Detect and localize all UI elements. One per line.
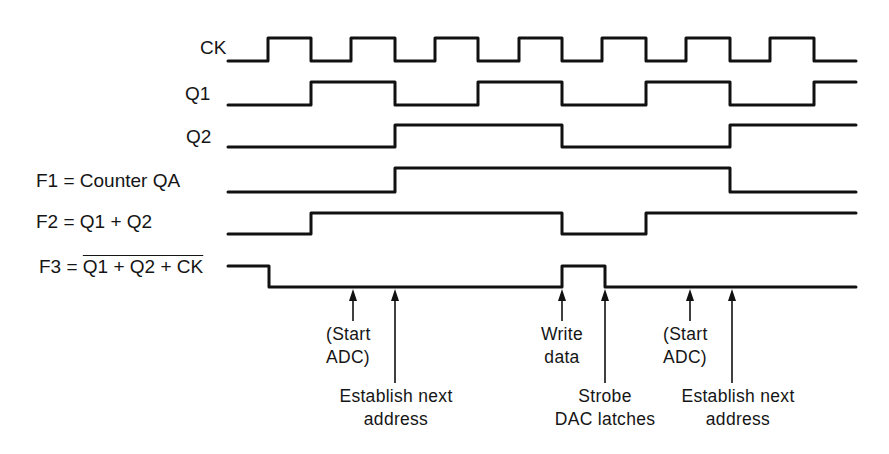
waveforms (228, 38, 856, 287)
waveform-q1 (228, 82, 856, 105)
arrow-start-adc-2-icon (686, 289, 694, 321)
arrow-strobe-dac-latches-icon (601, 289, 609, 383)
annotation-start-adc-1: (Start ADC) (326, 323, 371, 369)
waveform-ck (228, 38, 856, 61)
annotation-establish-next-address-1: Establish next address (331, 385, 461, 431)
signal-label-ck: CK (200, 37, 226, 59)
signal-label-q2: Q2 (186, 126, 211, 148)
arrow-establish-next-address-1-icon (391, 289, 399, 383)
waveform-f3 (228, 266, 856, 287)
signal-label-q1: Q1 (185, 83, 210, 105)
annotation-line: ADC) (326, 346, 371, 369)
annotation-line: Establish next (331, 385, 461, 408)
annotation-line: address (331, 408, 461, 431)
annotation-write-data: Write data (532, 323, 592, 369)
signal-label-f3: F3 = Q1 + Q2 + CK (39, 256, 203, 278)
waveform-f1 (228, 168, 856, 192)
signal-label-f2: F2 = Q1 + Q2 (36, 211, 152, 233)
annotation-line: Write (532, 323, 592, 346)
f3-label-prefix: F3 = (39, 256, 83, 277)
annotation-start-adc-2: (Start ADC) (663, 323, 708, 369)
signal-label-f1: F1 = Counter QA (36, 170, 180, 192)
annotation-strobe-dac-latches: Strobe DAC latches (549, 385, 661, 431)
waveform-q2 (228, 125, 856, 147)
arrow-start-adc-1-icon (349, 289, 357, 321)
annotation-line: Strobe (549, 385, 661, 408)
annotation-line: DAC latches (549, 408, 661, 431)
annotation-line: (Start (663, 323, 708, 346)
arrow-establish-next-address-2-icon (728, 289, 736, 383)
annotation-line: address (673, 408, 803, 431)
annotation-line: ADC) (663, 346, 708, 369)
annotation-establish-next-address-2: Establish next address (673, 385, 803, 431)
annotation-line: Establish next (673, 385, 803, 408)
waveform-f2 (228, 213, 856, 234)
arrow-write-data-icon (558, 289, 566, 321)
f3-label-expression-negated: Q1 + Q2 + CK (83, 256, 203, 277)
annotation-line: (Start (326, 323, 371, 346)
annotation-line: data (532, 346, 592, 369)
